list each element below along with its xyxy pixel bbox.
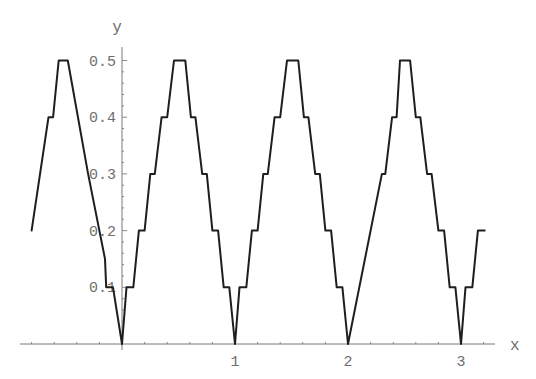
x-tick-label: 3 <box>456 354 465 371</box>
y-axis-ticks: 0.10.20.30.40.5 <box>89 54 127 298</box>
y-tick-label: 0.5 <box>89 54 116 71</box>
x-tick-label: 1 <box>230 354 239 371</box>
data-curve <box>32 61 485 345</box>
y-axis-label: y <box>112 19 122 37</box>
y-tick-label: 0.4 <box>89 110 116 127</box>
plot-area: 123 0.10.20.30.40.5 x y <box>0 0 536 379</box>
y-tick-label: 0.2 <box>89 224 116 241</box>
y-tick-label: 0.3 <box>89 167 116 184</box>
x-axis-label: x <box>510 337 520 355</box>
x-tick-label: 2 <box>343 354 352 371</box>
y-tick-label: 0.1 <box>89 280 116 297</box>
